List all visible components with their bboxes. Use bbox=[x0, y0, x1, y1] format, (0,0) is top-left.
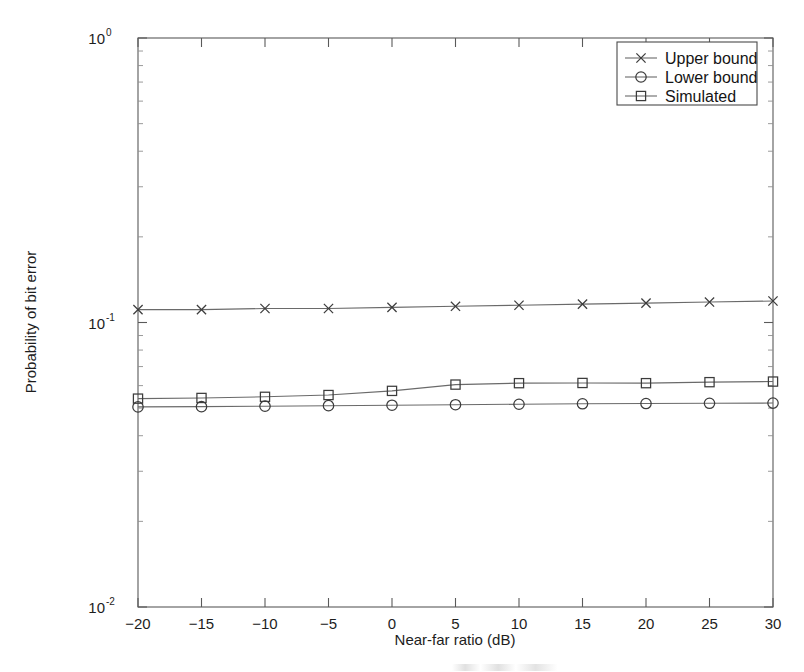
y-tick-label: 10-1 bbox=[88, 312, 115, 332]
legend-entry-label: Simulated bbox=[665, 88, 736, 105]
svg-text:-1: -1 bbox=[106, 312, 115, 323]
y-tick-label: 100 bbox=[88, 27, 112, 47]
chart-legend[interactable]: Upper boundLower boundSimulated bbox=[617, 42, 758, 105]
chart-canvas: 10010-110-2 −20−15−10−5051015202530 Near… bbox=[0, 0, 804, 672]
x-tick-label: −10 bbox=[252, 615, 277, 632]
x-tick-label: 10 bbox=[511, 615, 528, 632]
y-axis-title: Probability of bit error bbox=[22, 251, 39, 394]
svg-text:-2: -2 bbox=[106, 596, 115, 607]
svg-text:10: 10 bbox=[88, 599, 105, 616]
x-axis-tick-labels: −20−15−10−5051015202530 bbox=[125, 615, 781, 632]
x-tick-label: 15 bbox=[574, 615, 591, 632]
x-tick-label: 25 bbox=[701, 615, 718, 632]
x-tick-label: −15 bbox=[189, 615, 214, 632]
x-tick-label: 5 bbox=[451, 615, 459, 632]
svg-text:0: 0 bbox=[106, 27, 112, 38]
y-tick-label: 10-2 bbox=[88, 596, 115, 616]
x-tick-label: −20 bbox=[125, 615, 150, 632]
x-axis-title: Near-far ratio (dB) bbox=[395, 631, 516, 648]
x-tick-label: −5 bbox=[320, 615, 337, 632]
svg-text:10: 10 bbox=[88, 315, 105, 332]
chart-figure: 10010-110-2 −20−15−10−5051015202530 Near… bbox=[0, 0, 804, 672]
legend-entry-label: Upper bound bbox=[665, 50, 758, 67]
x-tick-label: 30 bbox=[765, 615, 782, 632]
page-edge-artifact bbox=[452, 664, 562, 671]
x-tick-label: 0 bbox=[388, 615, 396, 632]
svg-text:10: 10 bbox=[88, 30, 105, 47]
y-axis-tick-labels: 10010-110-2 bbox=[88, 27, 115, 616]
legend-entry-label: Lower bound bbox=[665, 69, 758, 86]
plot-background bbox=[138, 38, 773, 607]
x-tick-label: 20 bbox=[638, 615, 655, 632]
